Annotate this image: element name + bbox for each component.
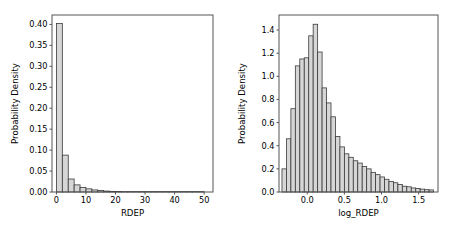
y-tick-label: 0.2 [261, 164, 274, 174]
y-tick-label: 0.6 [261, 118, 274, 128]
y-tick-label: 0.8 [261, 94, 274, 104]
x-axis: 01020304050 [54, 192, 210, 205]
y-axis: 0.00.20.40.60.81.01.21.4 [261, 25, 279, 197]
histogram-bar [282, 169, 286, 192]
histogram-bar [398, 184, 402, 192]
histogram-bar [291, 109, 295, 192]
histogram-bar [300, 59, 304, 192]
y-tick-label: 0.25 [29, 82, 47, 92]
y-axis: 0.000.050.100.150.200.250.300.350.40 [29, 19, 52, 197]
histogram-bar [313, 24, 317, 192]
histogram-bar [327, 103, 331, 192]
histogram-bar [362, 167, 366, 192]
histogram-bar [389, 182, 393, 192]
y-tick-label: 0.0 [261, 187, 274, 197]
histogram-bar [376, 175, 380, 192]
y-tick-label: 0.15 [29, 124, 47, 134]
histogram-svg: 0.00.51.01.50.00.20.40.60.81.01.21.4log_… [225, 0, 450, 231]
y-axis-label: Probability Density [237, 63, 247, 144]
histogram-bar [295, 66, 299, 192]
histogram-bar [385, 179, 389, 192]
x-tick-label: 0 [54, 195, 59, 205]
y-tick-label: 0.40 [29, 19, 47, 29]
y-tick-label: 0.10 [29, 145, 47, 155]
x-tick-label: 50 [199, 195, 209, 205]
x-tick-label: 1.0 [375, 195, 388, 205]
histogram-bar [358, 163, 362, 192]
histogram-bar [318, 52, 322, 192]
histogram-bar [411, 188, 415, 192]
chart-panel-log-rdep: 0.00.51.01.50.00.20.40.60.81.01.21.4log_… [225, 0, 450, 231]
x-tick-label: 30 [140, 195, 150, 205]
histogram-bar [407, 187, 411, 192]
histogram-bar [74, 185, 80, 192]
figure-histogram-pair: 010203040500.000.050.100.150.200.250.300… [0, 0, 450, 231]
x-axis-label: log_RDEP [338, 208, 379, 218]
plot-background [52, 15, 213, 192]
y-tick-label: 1.4 [261, 25, 274, 35]
y-tick-label: 0.20 [29, 103, 47, 113]
histogram-bar [80, 187, 86, 192]
y-tick-label: 0.00 [29, 187, 47, 197]
histogram-bar [402, 186, 406, 192]
histogram-bar [56, 24, 62, 192]
x-tick-label: 0.0 [301, 195, 314, 205]
histogram-bar [349, 157, 353, 192]
x-axis-label: RDEP [121, 208, 144, 218]
histogram-bar [331, 117, 335, 192]
x-tick-label: 40 [169, 195, 179, 205]
histogram-bar [367, 169, 371, 192]
histogram-bar [62, 155, 68, 192]
histogram-bar [286, 139, 290, 192]
y-tick-label: 0.4 [261, 141, 274, 151]
histogram-bar [371, 172, 375, 192]
x-tick-label: 20 [110, 195, 120, 205]
y-tick-label: 0.30 [29, 61, 47, 71]
y-tick-label: 1.0 [261, 71, 274, 81]
histogram-bar [340, 147, 344, 192]
y-tick-label: 1.2 [261, 48, 274, 58]
histogram-bar [322, 88, 326, 192]
histogram-bar [335, 136, 339, 192]
histogram-bar [393, 183, 397, 192]
y-tick-label: 0.05 [29, 166, 47, 176]
x-tick-label: 10 [81, 195, 91, 205]
histogram-bar [380, 177, 384, 192]
y-axis-label: Probability Density [10, 63, 20, 144]
histogram-bar [309, 36, 313, 192]
histogram-bar [344, 154, 348, 192]
histogram-svg: 010203040500.000.050.100.150.200.250.300… [0, 0, 225, 231]
y-tick-label: 0.35 [29, 40, 47, 50]
x-tick-label: 1.5 [412, 195, 425, 205]
histogram-bar [304, 58, 308, 192]
histogram-bar [416, 189, 420, 192]
chart-panel-rdep: 010203040500.000.050.100.150.200.250.300… [0, 0, 225, 231]
histogram-bar [68, 179, 74, 192]
x-tick-label: 0.5 [338, 195, 351, 205]
x-axis: 0.00.51.01.5 [301, 192, 425, 205]
histogram-bar [353, 161, 357, 192]
